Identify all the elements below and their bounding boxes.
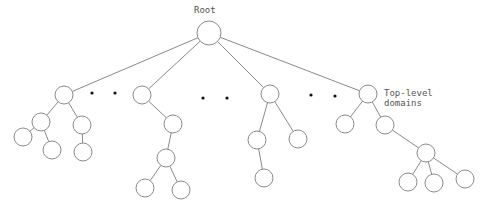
ellipsis-dot	[333, 94, 336, 97]
tree-node	[417, 144, 435, 162]
tree-node	[73, 116, 91, 134]
ellipsis-dot	[113, 91, 116, 94]
tree-edge	[259, 149, 263, 169]
tree-edge	[150, 165, 161, 180]
tld-label-line2: domains	[384, 98, 422, 108]
tree-edge	[30, 128, 34, 131]
tree-node	[289, 130, 307, 148]
tree-edge	[217, 41, 263, 87]
ellipsis-dot	[309, 93, 312, 96]
tree-edge	[413, 161, 422, 175]
tree-edge	[168, 133, 171, 149]
ellipsis-dot	[90, 91, 93, 94]
tree-node	[248, 131, 266, 149]
tree-edge	[220, 37, 359, 90]
tree-edge	[149, 101, 167, 118]
tree-node	[336, 115, 354, 133]
tree-node	[74, 143, 92, 161]
tree-edge	[170, 166, 177, 182]
tree-edge	[259, 103, 267, 132]
tree-edge	[350, 101, 362, 117]
tree-edge	[433, 158, 457, 174]
tree-edge	[47, 102, 58, 115]
tree-node	[43, 141, 61, 159]
tree-nodes	[14, 21, 474, 199]
tree-node	[14, 128, 32, 146]
tree-node	[157, 149, 175, 167]
tree-node	[32, 113, 50, 131]
tree-node	[425, 174, 443, 192]
tree-edge	[72, 38, 198, 92]
dns-tree-diagram: Root Top-level domains	[0, 0, 485, 205]
root-label: Root	[194, 5, 216, 15]
tree-node	[261, 85, 279, 103]
tree-node	[172, 181, 190, 199]
root-node	[197, 21, 221, 45]
tree-edge	[275, 102, 293, 132]
tree-edge	[69, 103, 78, 118]
ellipsis-dots	[90, 91, 336, 99]
ellipsis-dot	[225, 96, 228, 99]
tree-edge	[372, 102, 380, 117]
tree-edge	[428, 162, 431, 175]
tree-node	[359, 85, 377, 103]
tree-node	[255, 169, 273, 187]
tree-node	[399, 173, 417, 191]
tree-edge	[392, 130, 418, 148]
tree-edges	[30, 37, 458, 182]
ellipsis-dot	[201, 96, 204, 99]
tree-node	[55, 86, 73, 104]
tld-label-line1: Top-level	[384, 88, 433, 98]
tree-edge	[44, 130, 48, 141]
tree-node	[133, 86, 151, 104]
tree-node	[136, 179, 154, 197]
tree-node	[376, 116, 394, 134]
tree-node	[164, 115, 182, 133]
tree-node	[456, 170, 474, 188]
